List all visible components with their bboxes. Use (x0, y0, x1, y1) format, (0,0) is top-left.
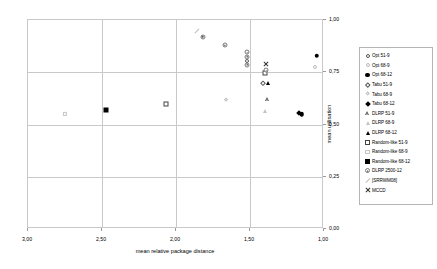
legend-label: Opt 68-9 (372, 63, 389, 68)
x-tick-mark (27, 228, 28, 231)
marker-dash (194, 29, 199, 34)
chart-legend: Opt 51-9Opt 68-9Opt 68-12Tabu 51-9Tabu 6… (359, 47, 433, 205)
legend-label: DLRP 51-9 (372, 111, 394, 116)
legend-label: DLRP 68-12 (372, 130, 397, 135)
legend-marker (363, 186, 372, 195)
data-point (194, 31, 200, 32)
data-point (63, 112, 67, 116)
data-point (163, 101, 168, 106)
legend-item[interactable]: Tabu 68-12 (363, 99, 430, 109)
legend-label: DLRP 68-9 (372, 120, 394, 125)
marker-dash (365, 178, 370, 183)
legend-label: DLRP 2500-12 (372, 168, 402, 173)
marker-triangle-gray (263, 109, 267, 113)
x-tick-label: 2,00 (170, 236, 180, 242)
marker-circle-filled (314, 53, 319, 58)
legend-marker (363, 80, 372, 89)
legend-item[interactable]: DLRP 2500-12 (363, 166, 430, 176)
legend-item[interactable]: [SRRWM08] (363, 176, 430, 186)
marker-square-gray (365, 150, 369, 154)
marker-diamond-gray (224, 98, 229, 103)
legend-marker (363, 109, 372, 118)
x-tick-label: 2,50 (96, 236, 106, 242)
y-tick-label: 0,75 (329, 68, 339, 74)
y-tick-mark (323, 71, 326, 72)
data-point (225, 99, 228, 102)
marker-x (263, 61, 269, 67)
legend-label: Tabu 51-9 (372, 82, 392, 87)
marker-circle-dot (365, 168, 370, 173)
legend-label: Tabu 68-12 (372, 101, 395, 106)
y-tick-label: 1,00 (329, 16, 339, 22)
x-tick-mark (101, 228, 102, 231)
legend-marker (363, 118, 372, 127)
data-point (262, 81, 266, 85)
marker-triangle-filled (366, 131, 370, 135)
y-axis-title: mean utilisation (326, 105, 332, 144)
y-tick-mark (323, 19, 326, 20)
legend-item[interactable]: Tabu 51-9 (363, 80, 430, 90)
legend-item[interactable]: Opt 51-9 (363, 51, 430, 61)
marker-square-open (365, 140, 370, 145)
plot-area (27, 19, 323, 228)
gridline-horizontal (28, 72, 322, 73)
data-point (264, 68, 269, 73)
legend-item[interactable]: Random-like 68-9 (363, 147, 430, 157)
marker-diamond-filled (296, 110, 302, 116)
x-tick-label: 1,50 (244, 236, 254, 242)
legend-label: Random-like 68-12 (372, 159, 410, 164)
y-tick-label: 0,25 (329, 173, 339, 179)
marker-circle-gray (313, 65, 317, 69)
chart-root: 3,002,502,001,501,00 0,000,250,500,751,0… (0, 0, 437, 269)
marker-triangle-open (266, 97, 270, 101)
marker-diamond-filled (365, 101, 371, 107)
marker-circle-filled (365, 73, 370, 78)
x-tick-label: 3,00 (22, 236, 32, 242)
data-point (263, 61, 269, 67)
marker-square-filled (104, 107, 109, 112)
legend-marker (363, 157, 372, 166)
legend-marker (363, 176, 372, 185)
data-point (104, 107, 109, 112)
legend-item[interactable]: Random-like 68-12 (363, 157, 430, 167)
gridline-horizontal (28, 177, 322, 178)
marker-x (365, 187, 371, 193)
marker-diamond-open (365, 82, 370, 87)
marker-square-filled (365, 159, 370, 164)
x-tick-label: 1,00 (318, 236, 328, 242)
marker-circle-dot (245, 62, 250, 67)
data-point (313, 65, 317, 69)
marker-triangle-filled (266, 81, 270, 85)
legend-item[interactable]: Random-like 51-9 (363, 137, 430, 147)
legend-item[interactable]: MCCD (363, 185, 430, 195)
marker-circle-gray (366, 63, 370, 67)
marker-circle-dot (200, 34, 205, 39)
legend-item[interactable]: DLRP 51-9 (363, 109, 430, 119)
gridline-vertical (102, 20, 103, 227)
legend-item[interactable]: DLRP 68-12 (363, 128, 430, 138)
legend-marker (363, 147, 372, 156)
legend-item[interactable]: Opt 68-9 (363, 61, 430, 71)
legend-label: Opt 68-12 (372, 72, 392, 77)
legend-label: Random-like 68-9 (372, 149, 407, 154)
gridline-vertical (176, 20, 177, 227)
data-point (263, 109, 267, 113)
marker-diamond-gray (365, 92, 370, 97)
data-point (297, 111, 301, 115)
legend-item[interactable]: Tabu 68-9 (363, 89, 430, 99)
legend-marker (363, 61, 372, 70)
legend-marker (363, 128, 372, 137)
data-point (245, 62, 250, 67)
legend-item[interactable]: Opt 68-12 (363, 70, 430, 80)
legend-item[interactable]: DLRP 68-9 (363, 118, 430, 128)
marker-circle-dot (222, 43, 227, 48)
legend-marker (363, 99, 372, 108)
legend-label: Random-like 51-9 (372, 140, 407, 145)
data-point (245, 54, 250, 59)
data-point (222, 43, 227, 48)
marker-circle-dot (245, 54, 250, 59)
x-tick-mark (249, 228, 250, 231)
legend-marker (363, 51, 372, 60)
marker-circle-dot (264, 68, 269, 73)
y-tick-mark (323, 176, 326, 177)
